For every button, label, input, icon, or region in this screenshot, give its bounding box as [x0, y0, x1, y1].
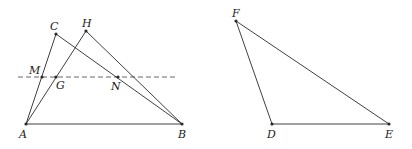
label-n: N — [110, 80, 121, 93]
segment-fd — [236, 21, 272, 124]
point-d — [270, 122, 273, 125]
point-n — [116, 75, 119, 78]
label-f: F — [231, 7, 240, 20]
segment-ac — [26, 34, 56, 124]
segment-fe — [236, 21, 389, 124]
point-e — [387, 122, 390, 125]
label-e: E — [384, 128, 393, 141]
geometry-figure: ABCHMGN FDE — [0, 0, 412, 149]
point-m — [40, 75, 43, 78]
label-m: M — [28, 64, 41, 77]
label-d: D — [266, 128, 276, 141]
triangle-def-diagram: FDE — [231, 7, 393, 141]
segment-hb — [86, 31, 182, 124]
label-g: G — [56, 79, 65, 92]
label-c: C — [50, 20, 59, 33]
point-b — [180, 122, 183, 125]
label-a: A — [18, 128, 27, 141]
label-b: B — [177, 128, 186, 141]
label-h: H — [81, 17, 92, 30]
triangle-abc-diagram: ABCHMGN — [18, 17, 186, 141]
point-a — [24, 122, 27, 125]
